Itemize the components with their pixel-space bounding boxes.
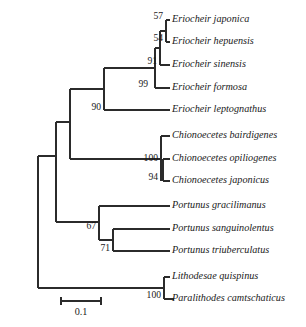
taxon-label: Portunus gracilimanus: [171, 199, 266, 210]
scale-bar-label: 0.1: [75, 306, 88, 317]
bootstrap-support-value: 71: [100, 242, 110, 253]
bootstrap-support-value: 57: [153, 10, 163, 21]
bootstrap-support-value: 91: [147, 55, 157, 66]
taxon-label-layer: Eriocheir japonicaEriocheir hepuensisEri…: [171, 13, 285, 303]
taxon-label: Chionoecetes opiliogenes: [172, 152, 276, 163]
bootstrap-support-value: 67: [86, 220, 96, 231]
taxon-label: Eriocheir sinensis: [171, 58, 246, 69]
scale-bar-group: 0.1: [61, 297, 101, 317]
taxon-label: Portunus triuberculatus: [171, 244, 269, 255]
taxon-label: Chionoecetes japonicus: [172, 174, 269, 185]
taxon-label: Eriocheir formosa: [171, 81, 247, 92]
bootstrap-support-value: 54: [153, 32, 163, 43]
taxon-label: Lithodesae quispinus: [171, 270, 258, 281]
taxon-label: Chionoecetes bairdigenes: [172, 129, 277, 140]
taxon-label: Eriocheir leptognathus: [171, 103, 266, 114]
bootstrap-support-value: 90: [91, 101, 101, 112]
tree-canvas: 5754919990100946771100 Eriocheir japonic…: [0, 0, 306, 327]
bootstrap-support-value: 94: [148, 171, 158, 182]
phylogenetic-tree-figure: 5754919990100946771100 Eriocheir japonic…: [0, 0, 306, 327]
taxon-label: Portunus sanguinolentus: [171, 222, 274, 233]
bootstrap-support-value: 100: [144, 152, 159, 163]
taxon-label: Eriocheir japonica: [171, 13, 249, 24]
bootstrap-support-value: 99: [138, 78, 148, 89]
bootstrap-support-value: 100: [147, 289, 162, 300]
taxon-label: Paralithodes camtschaticus: [171, 292, 285, 303]
support-value-layer: 5754919990100946771100: [86, 10, 163, 300]
taxon-label: Eriocheir hepuensis: [171, 35, 254, 46]
